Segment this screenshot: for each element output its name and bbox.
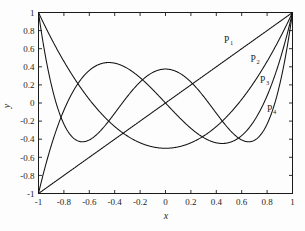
y-tick-label: -0.2 <box>20 116 34 126</box>
x-tick-label: 0 <box>163 197 168 207</box>
curve-label-base: P <box>251 54 256 64</box>
y-tick-label: 0.2 <box>23 80 34 90</box>
plot-background <box>0 0 305 231</box>
y-tick-label: -0.6 <box>20 153 35 163</box>
y-tick-label: -0.8 <box>20 171 35 181</box>
curve-label-base: P <box>267 104 272 114</box>
x-tick-label: 0.2 <box>185 197 196 207</box>
y-tick-label: 0.8 <box>23 26 35 36</box>
y-tick-label: 1 <box>30 8 35 18</box>
y-tick-label: 0.6 <box>23 44 35 54</box>
x-tick-label: 0.4 <box>211 197 223 207</box>
x-tick-label: -0.4 <box>108 197 123 207</box>
curve-label-base: P <box>260 75 265 85</box>
x-tick-label: 1 <box>290 197 295 207</box>
x-tick-label: 0.6 <box>236 197 248 207</box>
legendre-polynomial-plot: -1-0.8-0.6-0.4-0.200.20.40.60.81 10.80.6… <box>0 0 305 231</box>
x-tick-label: -1 <box>35 197 43 207</box>
curve-label-subscript: 3 <box>266 79 269 86</box>
x-tick-label: -0.2 <box>133 197 147 207</box>
curve-label-subscript: 2 <box>257 58 260 65</box>
curve-label-subscript: 1 <box>230 39 233 46</box>
x-tick-label: -0.6 <box>82 197 97 207</box>
y-tick-label: -0.4 <box>20 134 35 144</box>
x-tick-label: -0.8 <box>57 197 72 207</box>
x-axis-title: x <box>163 210 169 221</box>
figure-container: -1-0.8-0.6-0.4-0.200.20.40.60.81 10.80.6… <box>0 0 305 231</box>
x-tick-label: 0.8 <box>261 197 273 207</box>
y-tick-label: 0 <box>30 98 35 108</box>
y-tick-label: 0.4 <box>23 62 35 72</box>
curve-label-base: P <box>224 35 229 45</box>
y-axis-title: y <box>1 103 12 109</box>
y-tick-label: -1 <box>27 189 35 199</box>
